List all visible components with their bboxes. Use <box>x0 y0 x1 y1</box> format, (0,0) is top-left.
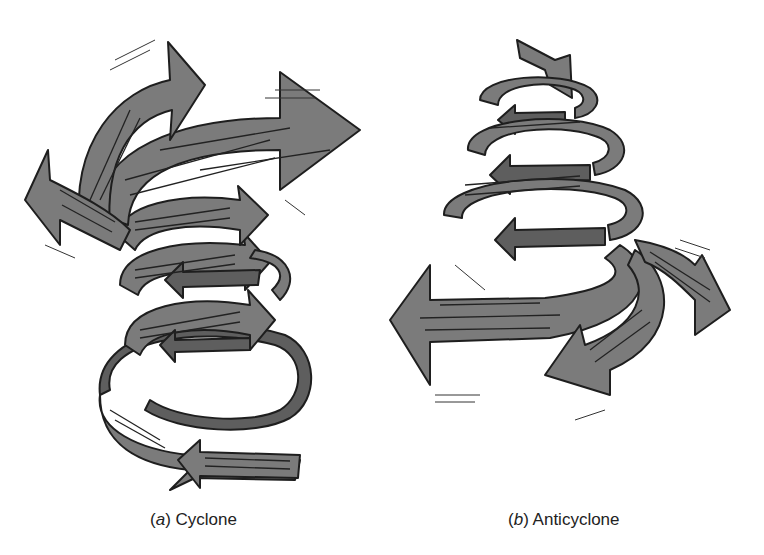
caption-letter: b <box>514 510 523 529</box>
cyclone-caption: (a) Cyclone <box>150 510 237 530</box>
caption-title: Cyclone <box>176 510 237 529</box>
anticyclone-panel: (b) Anticyclone <box>380 0 764 555</box>
anticyclone-spiral-illustration <box>380 0 764 505</box>
anticyclone-caption: (b) Anticyclone <box>508 510 620 530</box>
caption-title: Anticyclone <box>533 510 620 529</box>
cyclone-spiral-illustration <box>0 0 380 505</box>
cyclone-panel: (a) Cyclone <box>0 0 380 555</box>
caption-letter: a <box>156 510 165 529</box>
